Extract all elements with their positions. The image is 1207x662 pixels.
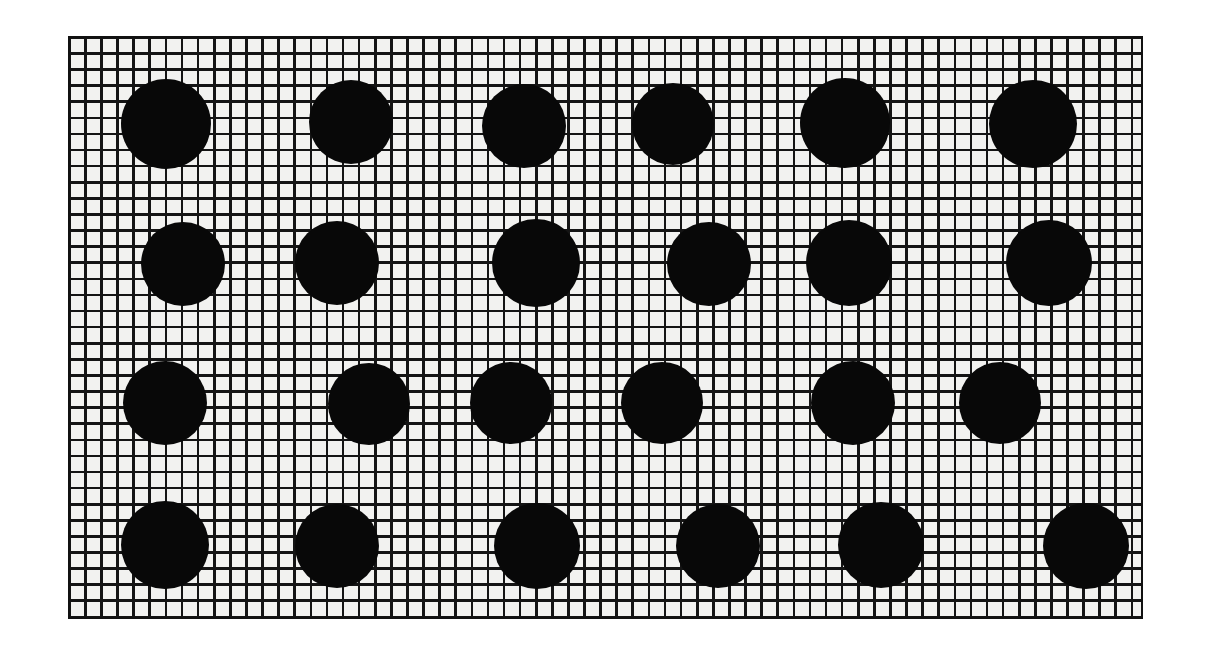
dot-r4c1 — [121, 501, 209, 589]
dot-r2c5 — [806, 220, 892, 306]
dot-r2c2 — [295, 221, 379, 305]
dot-r1c5 — [800, 78, 890, 168]
dot-r2c1 — [141, 222, 225, 306]
dot-r1c6 — [989, 80, 1077, 168]
dot-r4c5 — [838, 502, 924, 588]
image-canvas — [0, 0, 1207, 662]
dot-r4c6 — [1043, 503, 1129, 589]
dot-r1c2 — [309, 80, 393, 164]
dot-r4c4 — [676, 504, 760, 588]
dot-r3c4 — [621, 362, 703, 444]
dot-r4c2 — [295, 504, 379, 588]
dot-r2c3 — [492, 219, 580, 307]
dot-array — [68, 36, 1143, 619]
dot-r3c2 — [328, 363, 410, 445]
grid-plate — [68, 36, 1143, 619]
dot-r1c3 — [482, 84, 566, 168]
dot-r1c4 — [632, 83, 714, 165]
dot-r2c6 — [1006, 220, 1092, 306]
dot-r3c6 — [959, 362, 1041, 444]
dot-r3c3 — [470, 362, 552, 444]
dot-r4c3 — [494, 503, 580, 589]
dot-r3c5 — [811, 361, 895, 445]
dot-r1c1 — [121, 79, 211, 169]
dot-r3c1 — [123, 361, 207, 445]
dot-r2c4 — [667, 222, 751, 306]
